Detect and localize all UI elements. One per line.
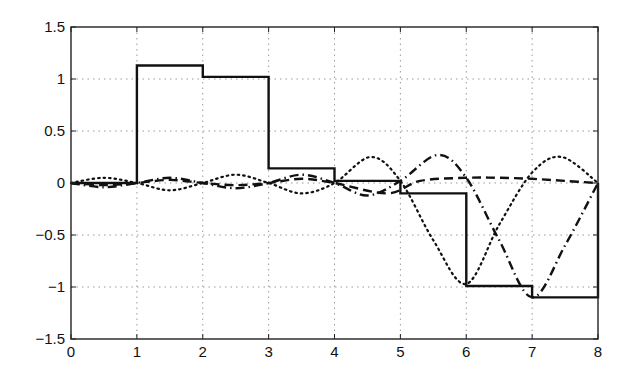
y-tick-label: −0.5 bbox=[35, 226, 65, 243]
x-tick-label: 3 bbox=[264, 343, 272, 360]
x-tick-label: 5 bbox=[396, 343, 404, 360]
y-tick-label: 1 bbox=[57, 70, 65, 87]
grid-lines bbox=[71, 27, 598, 339]
x-tick-label: 6 bbox=[462, 343, 470, 360]
x-tick-label: 4 bbox=[330, 343, 338, 360]
y-tick-label: −1.5 bbox=[35, 330, 65, 347]
x-tick-label: 8 bbox=[594, 343, 602, 360]
x-axis-tick-labels: 012345678 bbox=[67, 343, 602, 360]
y-tick-label: −1 bbox=[48, 278, 65, 295]
y-tick-label: 1.5 bbox=[44, 18, 65, 35]
data-series bbox=[71, 66, 598, 298]
x-tick-label: 2 bbox=[199, 343, 207, 360]
y-tick-label: 0 bbox=[57, 174, 65, 191]
x-tick-label: 7 bbox=[528, 343, 536, 360]
chart: 012345678 1.510.50−0.5−1−1.5 bbox=[0, 0, 634, 385]
x-tick-label: 0 bbox=[67, 343, 75, 360]
y-axis-tick-labels: 1.510.50−0.5−1−1.5 bbox=[35, 18, 65, 347]
y-tick-label: 0.5 bbox=[44, 122, 65, 139]
x-tick-label: 1 bbox=[133, 343, 141, 360]
